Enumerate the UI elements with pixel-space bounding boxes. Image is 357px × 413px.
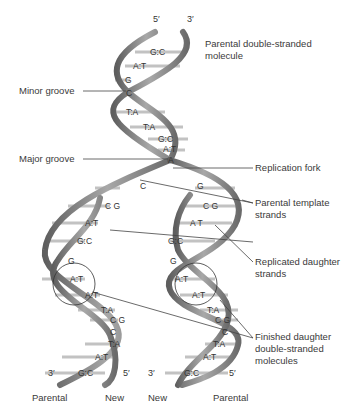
bp: T:A (108, 339, 120, 349)
bp: A (168, 155, 174, 165)
bp: A:T (85, 218, 98, 228)
bp: C (126, 88, 132, 98)
label-minor-groove: Minor groove (19, 85, 74, 97)
footer-new-left: New (105, 392, 124, 403)
bottom-3prime-right: 3′ (148, 368, 155, 378)
label-replication-fork: Replication fork (255, 162, 320, 174)
bp: A:T (95, 352, 108, 362)
label-parental-molecule: Parental double-stranded molecule (205, 38, 312, 62)
label-major-groove: Major groove (19, 153, 74, 165)
bp: A:T (85, 290, 98, 300)
bp: C G (110, 315, 125, 325)
bp: A:T (175, 274, 188, 284)
bp: C G (215, 315, 230, 325)
bp: G:C (168, 236, 183, 246)
bp: T:A (101, 305, 113, 315)
bottom-5prime-left: 5′ (123, 368, 130, 378)
top-3prime: 3′ (187, 14, 194, 24)
bp: T:A (213, 339, 225, 349)
bp: G:C (184, 368, 199, 378)
bottom-3prime-left: 3′ (48, 368, 55, 378)
footer-parental-right: Parental (213, 392, 248, 403)
bp: G:C (150, 47, 165, 57)
bp: A:T (192, 290, 205, 300)
bp: A:T (70, 274, 83, 284)
bp: C G (203, 201, 218, 211)
bp: C G (105, 201, 120, 211)
footer-new-right: New (148, 392, 167, 403)
bp: G (170, 256, 177, 266)
bp: G:C (78, 368, 93, 378)
bp: T:A (143, 122, 155, 132)
bp: G:C (77, 236, 92, 246)
bp: T:A (126, 107, 138, 117)
bp: A:T (163, 144, 176, 154)
label-parental-template: Parental template strands (255, 197, 329, 221)
bp: G (125, 75, 132, 85)
bp: A:T (203, 352, 216, 362)
label-replicated-daughter: Replicated daughter strands (255, 256, 340, 280)
bp: G (68, 256, 75, 266)
bp: G (197, 181, 204, 191)
bp: A T (190, 218, 203, 228)
bottom-5prime-right: 5′ (229, 368, 236, 378)
top-5prime: 5′ (153, 14, 160, 24)
dna-replication-diagram: 5′ 3′ Parental double-stranded molecule … (0, 0, 357, 413)
bp: C (222, 327, 228, 337)
bp: T:A (207, 305, 219, 315)
bp: A:T (133, 61, 146, 71)
footer-parental-left: Parental (32, 392, 67, 403)
label-finished-daughter: Finished daughter double-stranded molecu… (255, 331, 331, 367)
bp: C (110, 327, 116, 337)
bp: C (140, 181, 146, 191)
bp: G:C (158, 134, 173, 144)
